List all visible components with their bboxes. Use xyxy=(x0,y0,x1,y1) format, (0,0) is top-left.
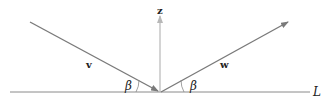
label-v: v xyxy=(85,59,93,70)
label-beta-left: β xyxy=(124,79,132,93)
angle-arc-left xyxy=(136,80,139,92)
label-line-l: L xyxy=(312,85,321,99)
vector-w xyxy=(161,22,288,92)
label-z: z xyxy=(157,5,163,16)
label-beta-right: β xyxy=(189,79,197,93)
label-w: w xyxy=(219,59,229,70)
angle-arc-right xyxy=(181,80,184,92)
reflection-diagram: z v w β β L xyxy=(0,0,325,103)
